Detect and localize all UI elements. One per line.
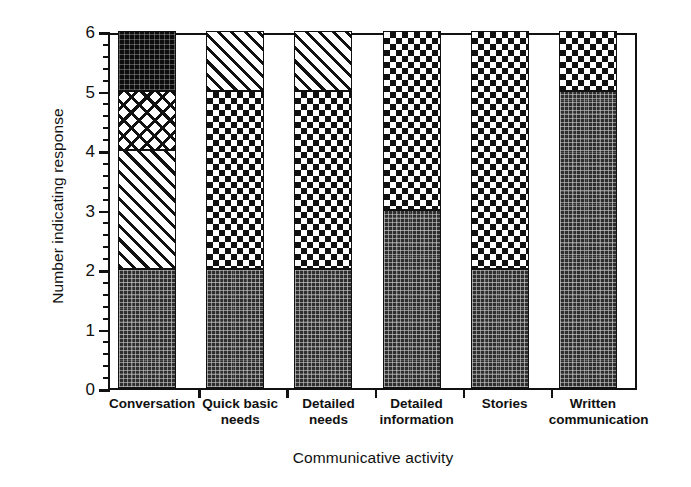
y-tick-minor — [103, 68, 110, 70]
y-tick-label: 2 — [86, 261, 95, 281]
y-tick-minor — [103, 246, 110, 248]
y-tick-label: 0 — [86, 380, 95, 400]
bar-segment-stipple-dark — [118, 269, 176, 388]
x-category-label-4: Detailedinformation — [373, 396, 461, 428]
y-tick-major — [99, 389, 110, 392]
y-tick-label: 3 — [86, 202, 95, 222]
x-category-label-line: needs — [196, 412, 284, 428]
bar-segment-stipple-dark — [383, 210, 441, 389]
bar-segment-dotted-black — [118, 31, 176, 91]
bar-segment-stipple-dark — [206, 269, 264, 388]
bar-chart-figure: Number indicating response Communicative… — [0, 0, 691, 487]
y-tick-minor — [103, 258, 110, 260]
x-category-label-line: Stories — [461, 396, 549, 412]
y-tick-major — [99, 151, 110, 154]
y-tick-label: 5 — [86, 83, 95, 103]
y-tick-major — [99, 32, 110, 35]
y-tick-minor — [103, 127, 110, 129]
x-category-label-line: Detailed — [373, 396, 461, 412]
x-category-label-line: Detailed — [284, 396, 372, 412]
y-tick-minor — [103, 377, 110, 379]
x-category-label-3: Detailedneeds — [284, 396, 372, 428]
y-tick-minor — [103, 80, 110, 82]
x-category-label-2: Quick basicneeds — [196, 396, 284, 428]
y-tick-minor — [103, 44, 110, 46]
y-tick-major — [99, 92, 110, 95]
y-tick-minor — [103, 175, 110, 177]
x-category-label-line: communication — [549, 412, 637, 428]
y-tick-minor — [103, 199, 110, 201]
bar-segment-hatch — [118, 150, 176, 269]
y-tick-minor — [103, 103, 110, 105]
x-category-label-line: Written — [549, 396, 637, 412]
bar-6 — [559, 31, 617, 388]
bar-segment-checker — [383, 31, 441, 210]
y-tick-label: 1 — [86, 321, 95, 341]
bar-1 — [118, 31, 176, 388]
y-tick-minor — [103, 115, 110, 117]
y-axis-title: Number indicating response — [49, 56, 67, 356]
x-category-label-line: information — [373, 412, 461, 428]
y-tick-major — [99, 330, 110, 333]
bar-5 — [471, 31, 529, 388]
bar-segment-hatch — [206, 31, 264, 91]
y-tick-minor — [103, 56, 110, 58]
y-tick-minor — [103, 222, 110, 224]
bar-segment-hatch — [294, 31, 352, 91]
y-tick-minor — [103, 139, 110, 141]
bar-segment-stipple-dark — [559, 91, 617, 389]
bar-segment-checker — [294, 91, 352, 270]
plot-right-rule — [635, 33, 637, 388]
y-tick-major — [99, 211, 110, 214]
bar-segment-stipple-dark — [471, 269, 529, 388]
y-tick-minor — [103, 341, 110, 343]
x-category-label-6: Writtencommunication — [549, 396, 637, 428]
bar-segment-checker — [206, 91, 264, 270]
x-axis-title: Communicative activity — [108, 449, 638, 467]
y-tick-minor — [103, 318, 110, 320]
x-category-label-line: needs — [284, 412, 372, 428]
y-tick-minor — [103, 187, 110, 189]
y-tick-label: 4 — [86, 142, 95, 162]
x-category-label-line: Quick basic — [196, 396, 284, 412]
x-category-label-line: Conversation — [108, 396, 196, 412]
y-tick-minor — [103, 163, 110, 165]
y-tick-minor — [103, 294, 110, 296]
x-category-label-1: Conversation — [108, 396, 196, 412]
y-tick-major — [99, 270, 110, 273]
bar-4 — [383, 31, 441, 388]
y-tick-minor — [103, 234, 110, 236]
bar-2 — [206, 31, 264, 388]
x-category-label-5: Stories — [461, 396, 549, 412]
y-tick-minor — [103, 306, 110, 308]
bar-3 — [294, 31, 352, 388]
y-tick-minor — [103, 282, 110, 284]
y-tick-minor — [103, 353, 110, 355]
bar-segment-stipple-dark — [294, 269, 352, 388]
bar-segment-checker — [471, 31, 529, 269]
plot-area: 0123456 — [108, 33, 637, 390]
bar-segment-crosshatch — [118, 91, 176, 151]
y-tick-minor — [103, 365, 110, 367]
y-tick-label: 6 — [86, 23, 95, 43]
bar-segment-checker — [559, 31, 617, 91]
